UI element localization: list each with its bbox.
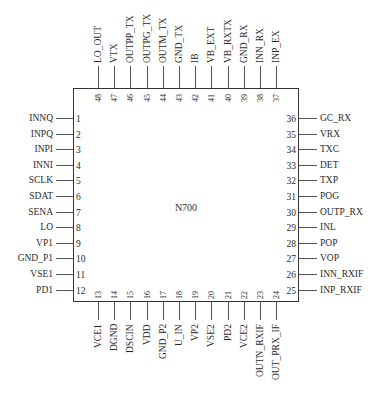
pin-lead bbox=[260, 302, 261, 320]
pin-number: 9 bbox=[76, 239, 81, 249]
pin-label: INP_EX bbox=[271, 30, 281, 63]
pin-lead bbox=[130, 66, 131, 88]
pin-label: GND_P1 bbox=[18, 253, 53, 263]
pin-label: GND_P2 bbox=[158, 324, 168, 359]
pin-lead bbox=[228, 66, 229, 88]
pin-label: LO_OUT bbox=[93, 26, 103, 63]
pin-number: 12 bbox=[76, 286, 86, 296]
pin-number: 47 bbox=[110, 94, 120, 102]
pin-number: 27 bbox=[287, 254, 297, 264]
pin-label: PD2 bbox=[223, 324, 233, 341]
pin-number: 7 bbox=[76, 208, 81, 218]
pin-number: 11 bbox=[76, 270, 85, 280]
pin-label: INP_RXIF bbox=[320, 285, 362, 295]
pin-lead bbox=[299, 243, 317, 244]
pin-label: VOP bbox=[320, 253, 339, 263]
pin-lead bbox=[228, 302, 229, 320]
pin-lead bbox=[56, 118, 73, 119]
pin-label: SCLK bbox=[29, 175, 53, 185]
pin-lead bbox=[130, 302, 131, 320]
pin-number: 14 bbox=[110, 291, 120, 299]
pin-number: 18 bbox=[175, 291, 185, 299]
pin-number: 16 bbox=[143, 291, 153, 299]
pin-lead bbox=[195, 302, 196, 320]
pin-lead bbox=[114, 302, 115, 320]
pin-lead bbox=[299, 134, 317, 135]
chip-name: N700 bbox=[74, 202, 298, 213]
pin-number: 10 bbox=[76, 254, 86, 264]
pin-number: 5 bbox=[76, 176, 81, 186]
pin-number: 8 bbox=[76, 223, 81, 233]
pin-number: 3 bbox=[76, 145, 81, 155]
pin-lead bbox=[299, 212, 317, 213]
pin-number: 33 bbox=[287, 161, 297, 171]
ic-pinout-diagram: N700 1INNQ2INPQ3INPI4INNI5SCLK6SDAT7SENA… bbox=[0, 0, 381, 416]
pin-label: VCE2 bbox=[239, 324, 249, 348]
pin-label: POP bbox=[320, 238, 337, 248]
pin-label: VP2 bbox=[190, 324, 200, 341]
pin-label: VRX bbox=[320, 129, 340, 139]
pin-lead bbox=[163, 302, 164, 320]
pin-label: OUTM_TX bbox=[158, 18, 168, 63]
pin-number: 23 bbox=[256, 291, 266, 299]
pin-label: VCE1 bbox=[93, 324, 103, 348]
pin-lead bbox=[56, 243, 73, 244]
pin-number: 44 bbox=[159, 94, 169, 102]
pin-number: 29 bbox=[287, 223, 297, 233]
pin-lead bbox=[56, 274, 73, 275]
pin-label: INL bbox=[320, 222, 336, 232]
pin-number: 22 bbox=[240, 291, 250, 299]
pin-number: 36 bbox=[287, 114, 297, 124]
pin-lead bbox=[299, 227, 317, 228]
pin-lead bbox=[56, 134, 73, 135]
pin-lead bbox=[299, 258, 317, 259]
pin-label: INN_RXIF bbox=[320, 269, 363, 279]
pin-lead bbox=[56, 149, 73, 150]
pin-label: INPQ bbox=[31, 129, 53, 139]
pin-lead bbox=[56, 227, 73, 228]
pin-label: OUTPG_TX bbox=[142, 14, 152, 63]
pin-number: 19 bbox=[191, 291, 201, 299]
pin-lead bbox=[114, 66, 115, 88]
pin-number: 20 bbox=[207, 291, 217, 299]
pin-label: DET bbox=[320, 160, 338, 170]
pin-label: VP1 bbox=[36, 238, 53, 248]
pin-label: VB_EXT bbox=[206, 27, 216, 63]
pin-label: INPI bbox=[35, 144, 53, 154]
pin-lead bbox=[299, 149, 317, 150]
pin-label: DGND bbox=[109, 324, 119, 351]
pin-number: 4 bbox=[76, 161, 81, 171]
pin-number: 32 bbox=[287, 176, 297, 186]
pin-lead bbox=[56, 165, 73, 166]
pin-lead bbox=[299, 290, 317, 291]
pin-lead bbox=[179, 302, 180, 320]
pin-lead bbox=[299, 118, 317, 119]
pin-number: 35 bbox=[287, 130, 297, 140]
pin-number: 34 bbox=[287, 145, 297, 155]
pin-number: 24 bbox=[272, 291, 282, 299]
pin-label: DSCIN bbox=[125, 324, 135, 353]
pin-label: GND_RX bbox=[239, 24, 249, 63]
pin-number: 1 bbox=[76, 114, 81, 124]
pin-number: 48 bbox=[94, 94, 104, 102]
pin-label: GND_TX bbox=[174, 25, 184, 63]
pin-number: 42 bbox=[191, 94, 201, 102]
pin-lead bbox=[260, 66, 261, 88]
pin-label: VSE1 bbox=[30, 269, 53, 279]
pin-lead bbox=[179, 66, 180, 88]
pin-lead bbox=[98, 302, 99, 320]
pin-number: 26 bbox=[287, 270, 297, 280]
pin-number: 17 bbox=[159, 291, 169, 299]
pin-label: PD1 bbox=[36, 285, 53, 295]
pin-number: 37 bbox=[272, 94, 282, 102]
pin-label: VDD bbox=[142, 324, 152, 345]
pin-number: 31 bbox=[287, 192, 297, 202]
pin-number: 25 bbox=[287, 286, 297, 296]
pin-label: SDAT bbox=[29, 191, 53, 201]
pin-lead bbox=[299, 274, 317, 275]
pin-number: 28 bbox=[287, 239, 297, 249]
pin-lead bbox=[276, 66, 277, 88]
pin-lead bbox=[56, 196, 73, 197]
pin-lead bbox=[98, 66, 99, 88]
pin-label: OUTPP_TX bbox=[125, 15, 135, 63]
